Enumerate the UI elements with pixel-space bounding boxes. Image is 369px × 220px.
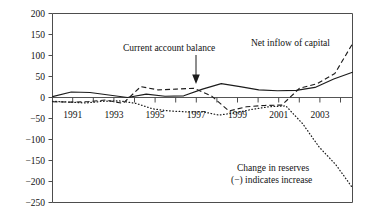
y-tick-label: −100 bbox=[25, 135, 45, 145]
annotation-current-account-balance: Current account balance bbox=[123, 43, 215, 84]
x-tick-label-1991: 1991 bbox=[63, 110, 82, 120]
y-axis-tick-labels: 200 150 100 50 0 −50 −100 −150 −200 −250 bbox=[25, 9, 45, 208]
y-tick-label: −250 bbox=[25, 198, 45, 208]
y-tick-label: 150 bbox=[31, 30, 46, 40]
y-tick-label: 100 bbox=[31, 51, 46, 61]
y-tick-label: −200 bbox=[25, 177, 45, 187]
annotation-change-in-reserves: Change in reserves (−) indicates increas… bbox=[231, 163, 312, 186]
y-tick-label: −150 bbox=[25, 156, 45, 166]
y-tick-label: −50 bbox=[30, 114, 45, 124]
y-tick-label: 200 bbox=[31, 9, 46, 19]
annotation-net-inflow-of-capital: Net inflow of capital bbox=[251, 38, 330, 48]
current-account-balance-label: Current account balance bbox=[123, 43, 215, 53]
x-tick-label-1999: 1999 bbox=[228, 110, 247, 120]
x-tick-label-2001: 2001 bbox=[269, 110, 288, 120]
net-inflow-of-capital-label: Net inflow of capital bbox=[251, 38, 330, 48]
series-current-account-balance bbox=[53, 72, 353, 97]
y-axis-ticks bbox=[49, 14, 53, 203]
x-tick-label-1995: 1995 bbox=[146, 110, 165, 120]
chart-figure: 200 150 100 50 0 −50 −100 −150 −200 −250 bbox=[0, 0, 369, 220]
x-tick-label-2003: 2003 bbox=[310, 110, 329, 120]
x-axis-tick-labels: 1991 1993 1995 1997 1999 2001 2003 bbox=[63, 110, 329, 120]
arrow-head-icon bbox=[192, 75, 200, 85]
series-net-inflow-of-capital bbox=[53, 44, 353, 111]
x-tick-label-1993: 1993 bbox=[104, 110, 123, 120]
y-tick-label: 0 bbox=[40, 93, 45, 103]
line-chart: 200 150 100 50 0 −50 −100 −150 −200 −250 bbox=[0, 0, 369, 220]
change-in-reserves-label: Change in reserves bbox=[237, 163, 310, 173]
change-in-reserves-note: (−) indicates increase bbox=[231, 175, 312, 186]
y-tick-label: 50 bbox=[36, 72, 46, 82]
